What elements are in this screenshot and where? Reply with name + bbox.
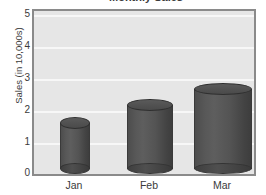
y-tick-label-0: 0 [16, 168, 30, 178]
plot-area [32, 9, 256, 176]
x-tick-label-jan: Jan [52, 178, 96, 192]
x-tick-label-mar: Mar [194, 178, 250, 192]
bar-mar[interactable] [194, 83, 252, 174]
bar-mar-bottom [194, 163, 252, 174]
gridline-4 [34, 47, 254, 49]
y-tick-label-4: 4 [16, 41, 30, 51]
bar-jan[interactable] [60, 117, 90, 174]
chart-title: Monthly Sales [36, 0, 256, 3]
bar-feb[interactable] [127, 99, 173, 174]
gridline-3 [34, 79, 254, 81]
y-tick-label-2: 2 [16, 105, 30, 115]
x-tick-label-feb: Feb [124, 178, 174, 192]
y-tick-label-1: 1 [16, 137, 30, 147]
y-tick-label-3: 3 [16, 73, 30, 83]
gridline-5 [34, 15, 254, 17]
chart-container: Monthly Sales Sales (in 10,000s) 5 4 3 2… [0, 0, 266, 195]
bar-feb-bottom [127, 163, 173, 174]
y-tick-label-5: 5 [16, 9, 30, 19]
bar-mar-top [194, 83, 252, 95]
bar-jan-top [60, 117, 90, 129]
bar-feb-top [127, 99, 173, 111]
bar-jan-bottom [60, 163, 90, 174]
bar-feb-body [127, 105, 173, 169]
y-axis-tick-labels: 5 4 3 2 1 0 [14, 0, 30, 195]
bar-mar-body [194, 89, 252, 169]
plot-inner [34, 11, 254, 174]
x-axis-tick-labels: Jan Feb Mar [32, 178, 256, 194]
